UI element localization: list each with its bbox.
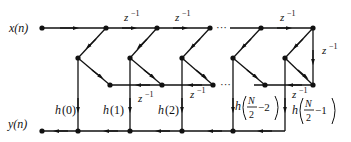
coef-h2: h (2): [158, 103, 179, 117]
svg-text:2: 2: [249, 109, 254, 120]
svg-text:−1: −1: [131, 9, 140, 18]
svg-text:(2): (2): [165, 103, 179, 117]
svg-text:z: z: [321, 44, 327, 56]
svg-text:−1: −1: [182, 9, 191, 18]
svg-text:z: z: [123, 11, 129, 23]
output-node: [39, 128, 44, 133]
svg-text:h: h: [55, 103, 61, 117]
svg-text:−1: −1: [145, 90, 154, 99]
delay-label-top-1: z −1: [123, 9, 140, 23]
svg-text:−2: −2: [258, 101, 270, 113]
svg-text:z: z: [291, 88, 297, 100]
svg-text:(1): (1): [110, 103, 124, 117]
svg-text:z: z: [189, 88, 195, 100]
svg-text:−1: −1: [315, 104, 327, 116]
svg-text:−1: −1: [299, 86, 308, 95]
ellipsis-middle: ···: [220, 78, 231, 90]
svg-text:z: z: [279, 11, 285, 23]
delay-label-top-2: z −1: [174, 9, 191, 23]
delay-label-top-3: z −1: [279, 9, 296, 23]
ellipsis-top: ···: [216, 21, 227, 33]
coef-h0: h (0): [55, 103, 76, 117]
coef-h-N2-minus-2: h N 2 −2: [235, 95, 278, 120]
svg-text:N: N: [304, 98, 313, 109]
svg-text:(0): (0): [62, 103, 76, 117]
svg-text:−1: −1: [329, 42, 338, 51]
svg-text:h: h: [235, 99, 241, 113]
svg-text:−1: −1: [197, 86, 206, 95]
svg-text:h: h: [103, 103, 109, 117]
fir-signal-flow-diagram: x(n) y(n) ··· ··· z −1 z −1 z −1 z −1 z …: [0, 0, 351, 142]
input-node: [39, 25, 44, 30]
svg-text:h: h: [158, 103, 164, 117]
svg-text:z: z: [137, 92, 143, 104]
input-label: x(n): [8, 21, 28, 35]
svg-text:2: 2: [306, 112, 311, 123]
svg-text:h: h: [292, 103, 298, 117]
delay-label-right: z −1: [321, 42, 338, 56]
svg-text:N: N: [247, 95, 256, 106]
svg-text:−1: −1: [287, 9, 296, 18]
coef-h-N2-minus-1: h N 2 −1: [292, 98, 335, 124]
output-label: y(n): [7, 117, 27, 131]
graph-nodes: [39, 25, 315, 133]
svg-text:z: z: [174, 11, 180, 23]
coef-h1: h (1): [103, 103, 124, 117]
delay-label-mid-2: z −1: [189, 86, 206, 100]
delay-label-mid-1: z −1: [137, 90, 154, 104]
